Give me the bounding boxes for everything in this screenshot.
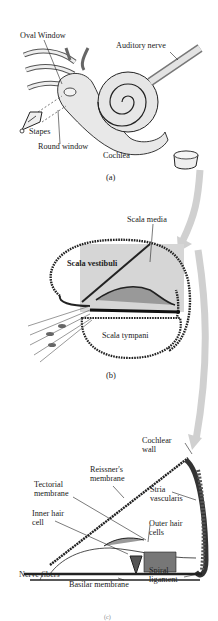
caption-b: (b)	[106, 370, 116, 380]
ear-anatomy-illustration	[0, 0, 218, 621]
label-auditory-nerve: Auditory nerve	[116, 41, 166, 50]
label-oval-window: Oval Window	[20, 31, 66, 40]
label-scala-vestibuli: Scala vestibuli	[67, 259, 117, 268]
label-reissners-membrane: Reissner's membrane	[90, 465, 125, 483]
label-inner-hair-cell: Inner hair cell	[32, 509, 64, 527]
label-outer-hair-cells: Outer hair cells	[149, 519, 182, 537]
label-stapes: Stapes	[29, 127, 50, 136]
label-cochlea: Cochlea	[103, 151, 130, 160]
label-scala-media: Scala media	[127, 215, 167, 224]
label-stria-vascularis: Stria vascularis	[150, 485, 183, 503]
label-nerve-fibers: Nerve fibers	[19, 570, 60, 579]
caption-c: (c)	[104, 614, 111, 620]
label-round-window: Round window	[38, 142, 88, 151]
connecting-arrows	[183, 170, 205, 440]
label-tectorial-membrane: Tectorial membrane	[34, 480, 69, 498]
label-basilar-membrane: Basilar membrane	[69, 580, 129, 589]
label-scala-tympani: Scala tympani	[102, 331, 149, 340]
caption-a: (a)	[106, 172, 115, 182]
label-cochlear-wall: Cochlear wall	[142, 436, 172, 454]
panel-b-drawing	[28, 224, 190, 362]
label-spiral-ligament: Spiral ligament	[149, 566, 178, 584]
